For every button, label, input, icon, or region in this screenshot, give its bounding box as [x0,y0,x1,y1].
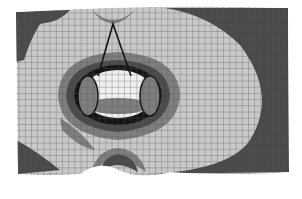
mesh-contour-plot [0,0,302,199]
fea-mesh-figure [0,0,302,199]
mesh-grid-lines [0,0,302,199]
mesh-body [0,0,302,199]
